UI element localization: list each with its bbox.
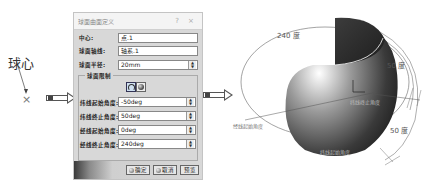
center-row: 中心: <box>79 34 93 42</box>
lon-start-spinner[interactable]: ▲▼ <box>186 126 194 134</box>
pointer-line <box>14 66 34 96</box>
lat-end-spinner[interactable]: ▲▼ <box>186 112 194 120</box>
lon-start-label: 经线起始角度: <box>80 127 118 135</box>
full-sphere-button[interactable] <box>136 82 146 92</box>
preview-button[interactable]: 预览 <box>180 165 199 175</box>
radius-label: 球面半径: <box>79 61 105 69</box>
axis-label: 球面轴线: <box>79 47 105 55</box>
radius-spinner[interactable]: ▲▼ <box>188 61 196 69</box>
sphere-surface-dialog: 球面曲面定义 ? × 中心: 点.1 球面轴线: 轴系.1 球面半径: 20mm… <box>73 12 203 180</box>
center-input[interactable]: 点.1 <box>118 33 198 43</box>
radius-input[interactable]: 20mm ▲▼ <box>118 60 198 70</box>
lon-start-value: 0deg <box>121 126 136 133</box>
right-arrow-icon <box>46 94 76 102</box>
preview-label: 预览 <box>184 166 196 174</box>
radius-row: 球面半径: <box>79 61 105 69</box>
longitude-240-label: 240 度 <box>277 30 300 40</box>
dialog-titlebar: 球面曲面定义 ? × <box>74 13 202 30</box>
lon-end-input[interactable]: 240deg ▲▼ <box>118 139 196 149</box>
lat-start-spinner[interactable]: ▲▼ <box>186 98 194 106</box>
ok-button[interactable]: 确定 <box>126 165 150 175</box>
lat-start-value: -50deg <box>121 98 142 105</box>
lon-end-spinner[interactable]: ▲▼ <box>186 140 194 148</box>
lat-start-3d-label: 纬线起始角度 <box>320 148 350 155</box>
sphere-limits-group: 球面限制 纬线起始角度: -50deg ▲▼ 纬线终止角度: 50deg ▲▼ … <box>78 75 198 161</box>
lat-end-label: 纬线终止角度: <box>80 113 118 121</box>
full-sphere-icon <box>138 84 144 90</box>
center-label: 中心: <box>79 34 93 42</box>
lat-end-input[interactable]: 50deg ▲▼ <box>118 111 196 121</box>
sphere-limits-title: 球面限制 <box>85 72 113 80</box>
lon-end-value: 240deg <box>121 140 144 147</box>
lon-start-input[interactable]: 0deg ▲▼ <box>118 125 196 135</box>
radius-value: 20mm <box>121 61 140 68</box>
help-button[interactable]: ? <box>170 17 184 25</box>
cancel-button[interactable]: 取消 <box>153 165 177 175</box>
cancel-icon <box>156 168 161 173</box>
sphere-mode-buttons <box>126 82 146 92</box>
limited-sphere-button[interactable] <box>126 82 136 92</box>
sphere-3d-view: 240 度 50 度 50 度 经线起始角度 纬线终止角度 纬线起始角度 <box>225 10 425 180</box>
ok-label: 确定 <box>135 166 147 174</box>
lat-start-input[interactable]: -50deg ▲▼ <box>118 97 196 107</box>
limited-sphere-icon <box>128 84 135 91</box>
latitude-50-top-label: 50 度 <box>387 60 405 70</box>
close-button[interactable]: × <box>184 17 198 25</box>
meridian-start-label: 经线起始角度 <box>233 122 263 129</box>
axis-row: 球面轴线: <box>79 47 105 55</box>
lat-end-value: 50deg <box>121 112 140 119</box>
ok-icon <box>129 168 134 173</box>
dialog-title: 球面曲面定义 <box>78 17 170 26</box>
lat-start-label: 纬线起始角度: <box>80 99 118 107</box>
lat-end-3d-label: 纬线终止角度 <box>350 98 380 105</box>
center-marker-icon: × <box>22 93 31 106</box>
axis-input[interactable]: 轴系.1 <box>118 46 198 56</box>
latitude-50-bottom-label: 50 度 <box>390 125 408 135</box>
cancel-label: 取消 <box>162 166 174 174</box>
lon-end-label: 经线终止角度: <box>80 141 118 149</box>
